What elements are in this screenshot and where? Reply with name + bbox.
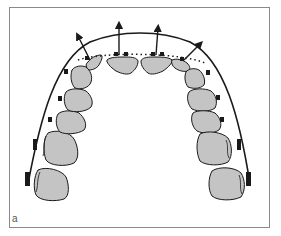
tooth-right-lateral-incisor	[172, 59, 190, 71]
bracket-left-molar-2	[25, 172, 30, 186]
bracket-right-central	[151, 52, 155, 56]
tooth-right-canine	[185, 69, 205, 89]
tooth-left-premolar-1	[64, 89, 92, 112]
bracket-left-molar-1	[33, 139, 37, 150]
bracket-right-molar-1	[237, 139, 241, 150]
dental-arch-diagram	[0, 0, 281, 236]
bracket-left-canine	[64, 69, 68, 74]
tooth-right-premolar-1	[188, 89, 217, 111]
bracket-left-central	[114, 52, 118, 56]
arrow-right-central	[156, 28, 158, 55]
tooth-left-molar-1	[44, 131, 78, 165]
tooth-right-central-incisor	[141, 57, 172, 74]
bracket-left-premolar-1	[58, 96, 62, 101]
bracket-right-lateral	[180, 57, 184, 61]
tooth-left-premolar-2	[56, 111, 85, 134]
bracket-right-molar-2	[246, 172, 251, 186]
tooth-right-molar-2	[209, 168, 244, 200]
teeth	[34, 55, 244, 201]
expansion-arrows	[78, 25, 200, 60]
tooth-right-molar-1	[197, 132, 231, 165]
bracket-right-premolar-2	[220, 117, 224, 122]
tooth-right-premolar-2	[192, 111, 221, 133]
arrow-right-lateral	[184, 44, 200, 60]
bracket-right-canine	[206, 70, 210, 75]
bracket-left-premolar-2	[48, 117, 52, 122]
bracket-right-premolar-1	[216, 95, 220, 100]
tooth-left-central-incisor	[107, 57, 138, 74]
panel-label: a	[12, 214, 18, 224]
